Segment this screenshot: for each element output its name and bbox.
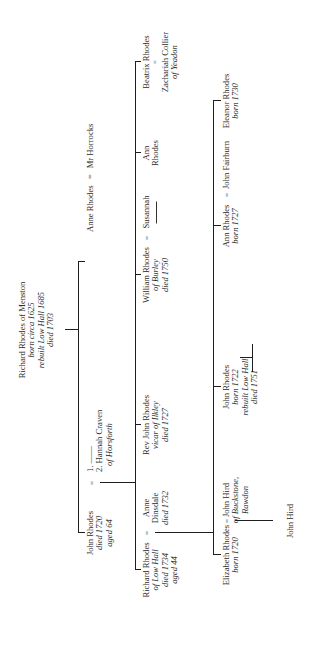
spouse-mr-horrocks: Mr Horrocks bbox=[85, 124, 95, 169]
generation1-sibling-bar bbox=[78, 261, 79, 533]
person-john-hird-son: John Hird bbox=[286, 504, 295, 538]
family-tree-diagram: Richard Rhodes of Menston born circa 162… bbox=[0, 0, 312, 652]
spouse-susannah: Susannah bbox=[142, 196, 161, 229]
spouse-detail: of Horsforth bbox=[105, 410, 114, 472]
person-john-rhodes-1720: John Rhodes died 1720 aged 64 bbox=[86, 511, 114, 555]
marriage-sign: = bbox=[85, 170, 95, 183]
spouse-john-fairburn: John Fairburn bbox=[222, 141, 231, 189]
tick-elizabeth-rhodes bbox=[213, 554, 221, 555]
person-ann-rhodes-gen2: Ann Rhodes bbox=[142, 140, 161, 166]
tick-ann-rhodes-1727 bbox=[213, 225, 221, 226]
marriage-descent-line-richard-anne bbox=[155, 532, 213, 533]
person-elizabeth-rhodes: Elizabeth Rhodes born 1720 bbox=[222, 525, 241, 585]
person-beatrix-rhodes: Beatrix Rhodes = Zachariah Collier of Ye… bbox=[142, 32, 180, 92]
person-rev-john-rhodes: Rev John Rhodes vicar of Ilkley died 172… bbox=[142, 395, 170, 455]
marriage-sign: = bbox=[223, 193, 232, 198]
generation3-sibling-bar bbox=[213, 100, 214, 555]
person-richard-rhodes-of-menston: Richard Rhodes of Menston born circa 162… bbox=[18, 282, 56, 379]
no-issue-bar bbox=[252, 344, 253, 372]
person-william-rhodes: William Rhodes of Burley died 1750 bbox=[142, 247, 170, 303]
person-anne-rhodes: Anne Rhodes = Mr Horrocks bbox=[86, 124, 95, 232]
marriage-sign: = bbox=[143, 531, 152, 536]
root-descent-line bbox=[65, 329, 78, 330]
person-richard-rhodes-of-low-hall: Richard Rhodes of Low Hall died 1734 age… bbox=[142, 542, 180, 597]
marriage-descent-line-john-hannah bbox=[100, 482, 135, 483]
unknown-dash bbox=[156, 201, 157, 223]
person-ann-rhodes-1727: Ann Rhodes born 1727 bbox=[222, 205, 241, 248]
tick-john-rhodes-1722 bbox=[213, 386, 221, 387]
marriage-sign: = bbox=[143, 236, 152, 241]
spouse-anne-dinsdale: Anne Dinsdale died 1732 bbox=[142, 491, 170, 525]
marriage-sign: = bbox=[88, 481, 97, 486]
tick-john-rhodes bbox=[78, 532, 85, 533]
person-john-rhodes-1722: John Rhodes born 1722 rebuilt Low Hall d… bbox=[222, 359, 260, 416]
spouse-john-hird: John Hird of Buckstone, Rawdon bbox=[222, 477, 250, 523]
person-detail: died 1703 bbox=[46, 282, 55, 379]
spouses-of-john-rhodes: 1. —— 2. Hannah Craven of Horsforth bbox=[86, 410, 114, 472]
person-eleanor-rhodes: Eleanor Rhodes born 1730 bbox=[222, 74, 241, 129]
tick-eleanor-rhodes bbox=[213, 100, 221, 101]
generation2-sibling-bar bbox=[135, 61, 136, 570]
tick-anne-rhodes bbox=[78, 261, 85, 262]
marriage-descent-line-elizabeth-john-hird bbox=[235, 520, 273, 521]
